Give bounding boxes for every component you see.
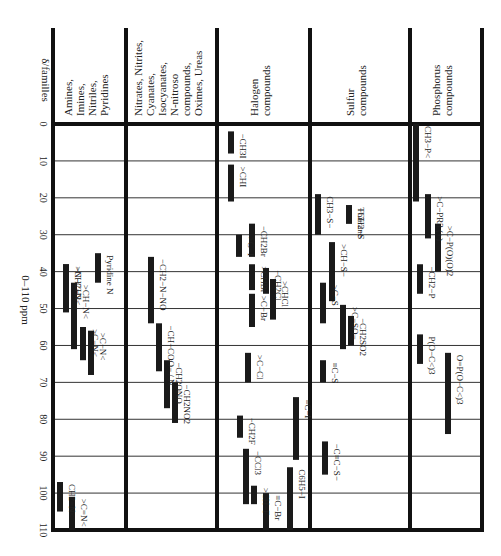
range-label: −CH3I: [238, 133, 248, 158]
y-tick-label: 10: [38, 156, 49, 166]
y-tick-label: 20: [38, 193, 49, 203]
range-bar: [320, 283, 326, 324]
y-axis: 01020304050607080901001100–110 ppmδ/fami…: [20, 58, 52, 537]
range-bar: [417, 334, 423, 364]
column-header-line: Pyridines: [98, 74, 110, 116]
range-label: CH3−P<: [423, 126, 433, 158]
range-label: −CH2−N−NO: [158, 259, 168, 311]
range-bar: [445, 353, 451, 434]
y-tick-label: 70: [38, 377, 49, 387]
range-bar: [346, 205, 352, 223]
range-label: CH2=N<: [67, 484, 77, 518]
y-tick-label: 80: [38, 414, 49, 424]
range-label: ≡C−Br: [273, 495, 283, 520]
range-label: >C−S: [330, 285, 340, 306]
range-bar: [251, 486, 257, 504]
range-bar: [413, 124, 419, 202]
range-bar: [287, 467, 293, 530]
y-tick-label: 40: [38, 267, 49, 277]
column-header-line: compounds: [260, 65, 272, 116]
column-header-line: compounds: [356, 65, 368, 116]
column-header-line: N-nitroso: [168, 73, 180, 116]
range-label: >CHCl: [280, 281, 290, 308]
column-header-line: Amines,: [62, 79, 74, 116]
range-label: Pyridine N: [105, 255, 115, 295]
column-header-line: Nitriles,: [86, 80, 98, 116]
range-label: −CH2−P: [427, 266, 437, 298]
range-bar: [148, 257, 154, 323]
column-header-line: Isocyanates,: [156, 62, 168, 116]
range-bar: [237, 416, 243, 438]
range-bar: [245, 353, 251, 383]
range-label: >CHBr: [259, 266, 269, 293]
range-bar: [80, 327, 86, 360]
range-label: O=P(O−C<)3: [455, 355, 465, 405]
range-bar: [340, 305, 346, 349]
range-bar: [95, 253, 101, 283]
y-tick-label: 100: [38, 486, 49, 501]
column-header-line: Nitrates, Nitrites,: [132, 40, 144, 116]
range-label: >C−Br: [259, 296, 269, 321]
column-header-line: compounds: [442, 65, 454, 116]
range-bar: [63, 264, 69, 312]
range-label: >C−Cl: [255, 355, 265, 380]
range-label: −CH2F: [247, 418, 257, 445]
range-bar: [249, 294, 255, 327]
range-bar: [243, 449, 249, 504]
column-header-line: Phosphorus: [430, 65, 442, 116]
range-bar: [57, 482, 63, 512]
range-bar: [228, 165, 234, 202]
column-header-line: Imines,: [74, 83, 86, 116]
column-header-line: Oximes, Ureas: [192, 51, 204, 116]
range-label: −CCl3: [253, 451, 263, 476]
range-label: >C−I: [246, 237, 256, 256]
range-label: >C−PR3 (+): [435, 196, 445, 241]
column-header-line: Sulfur: [344, 88, 356, 116]
range-bar: [315, 194, 321, 235]
range-bar: [322, 441, 328, 474]
range-bar: [417, 264, 423, 294]
nmr-shift-chart: −CH2−N<>N−CH3>CH−N<>C−N<>C−N<Pyridine NC…: [0, 0, 501, 556]
range-label: >C=N<: [79, 499, 89, 527]
range-label: ≡C−I: [303, 399, 313, 418]
range-label: ≡C−S: [330, 362, 340, 383]
range-bar: [156, 323, 162, 371]
range-label: −C≡C−S−: [332, 443, 342, 480]
range-label: >CH−N<: [81, 285, 91, 319]
range-label: >CH−F: [261, 488, 271, 516]
y-tick-label: 50: [38, 304, 49, 314]
column-header-line: compounds,: [180, 62, 192, 116]
range-label: >CH−S−: [339, 244, 349, 277]
y-tick-label: 0: [38, 122, 49, 127]
range-label: P(O−C<)3: [427, 336, 437, 375]
range-label: C6H5−I: [297, 469, 307, 499]
range-label: CH3−S−: [325, 196, 335, 228]
grid-lines: [53, 161, 482, 493]
range-label: >C−N<: [98, 333, 108, 361]
range-label: >CHI: [238, 167, 248, 188]
range-label: −CH2NO2: [182, 384, 192, 424]
y-tick-label: 60: [38, 340, 49, 350]
range-bar: [320, 360, 326, 382]
corner-label: δ/familles: [40, 58, 52, 102]
range-bar: [425, 194, 431, 238]
range-label: −CH2SO2: [358, 318, 368, 356]
column-header-line: Cyanates,: [144, 73, 156, 116]
y-axis-label: 0–110 ppm: [20, 275, 32, 325]
range-label: −CH2Br: [259, 226, 269, 257]
range-label: Thiirane: [356, 207, 366, 238]
range-bar: [293, 397, 299, 460]
column-header-line: Halogen: [248, 78, 260, 116]
range-bar: [249, 264, 255, 290]
y-tick-label: 30: [38, 230, 49, 240]
range-label: >C−P(O)(O)2: [445, 226, 455, 277]
range-bar: [236, 235, 242, 257]
range-bar: [228, 131, 234, 153]
y-tick-label: 110: [38, 523, 49, 538]
column-headers: Amines,Imines,Nitriles,PyridinesNitrates…: [62, 40, 455, 116]
y-tick-label: 90: [38, 451, 49, 461]
